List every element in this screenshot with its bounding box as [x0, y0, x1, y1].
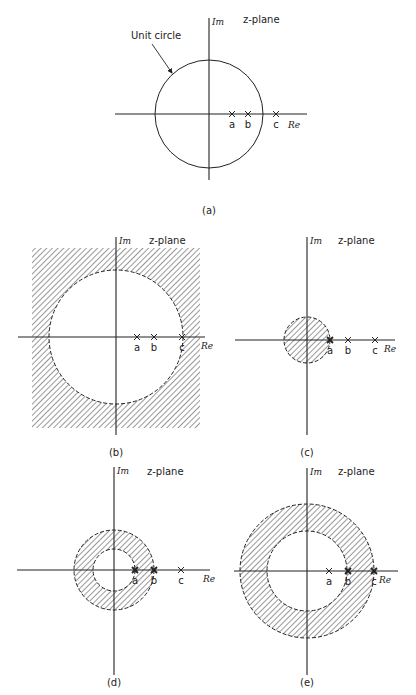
- panel-c: Imz-planeRe(c)abc: [235, 235, 396, 458]
- plane-label: z-plane: [243, 14, 280, 25]
- panel-caption: (c): [300, 447, 313, 458]
- panel-caption: (e): [300, 677, 314, 688]
- unit-circle-annotation: Unit circle: [131, 30, 181, 73]
- pole-label: a: [327, 345, 333, 356]
- panel-caption: (d): [107, 677, 121, 688]
- pole-label: a: [229, 119, 235, 130]
- pole-label: b: [151, 342, 157, 353]
- panels: Imz-planeRe(a)abcImz-planeRe(b)abcImz-pl…: [17, 14, 398, 688]
- pole-label: c: [273, 119, 279, 130]
- pole-label: c: [372, 345, 378, 356]
- pole-label: b: [151, 575, 157, 586]
- im-axis-label: Im: [309, 467, 322, 477]
- pole-label: b: [345, 576, 351, 587]
- panel-d: Imz-planeRe(d)abc: [17, 466, 215, 688]
- unit-circle-label: Unit circle: [131, 30, 181, 41]
- panel-caption: (a): [202, 205, 216, 216]
- pole-label: a: [132, 575, 138, 586]
- pole-label: c: [178, 575, 184, 586]
- re-axis-label: Re: [383, 344, 396, 354]
- panel-b: Imz-planeRe(b)abc: [18, 235, 213, 458]
- plane-label: z-plane: [338, 235, 375, 246]
- arrow-icon: [152, 44, 172, 73]
- re-axis-label: Re: [378, 575, 391, 585]
- plane-label: z-plane: [149, 235, 186, 246]
- roc-figure: Unit circle Imz-planeRe(a)abcImz-planeRe…: [0, 0, 416, 695]
- re-axis-label: Re: [287, 120, 300, 130]
- pole-label: b: [245, 119, 251, 130]
- pole-label: c: [371, 576, 377, 587]
- im-axis-label: Im: [116, 466, 129, 476]
- pole-label: b: [345, 345, 351, 356]
- im-axis-label: Im: [118, 236, 131, 246]
- plane-label: z-plane: [147, 466, 184, 477]
- panel-a: Imz-planeRe(a)abc: [115, 14, 307, 216]
- re-axis-label: Re: [202, 574, 215, 584]
- pole-label: c: [179, 342, 185, 353]
- panel-caption: (b): [109, 447, 123, 458]
- im-axis-label: Im: [211, 17, 224, 27]
- im-axis-label: Im: [309, 236, 322, 246]
- plane-label: z-plane: [338, 466, 375, 477]
- panel-e: Imz-planeRe(e)abc: [234, 466, 398, 688]
- pole-label: a: [134, 342, 140, 353]
- pole-label: a: [326, 576, 332, 587]
- re-axis-label: Re: [200, 341, 213, 351]
